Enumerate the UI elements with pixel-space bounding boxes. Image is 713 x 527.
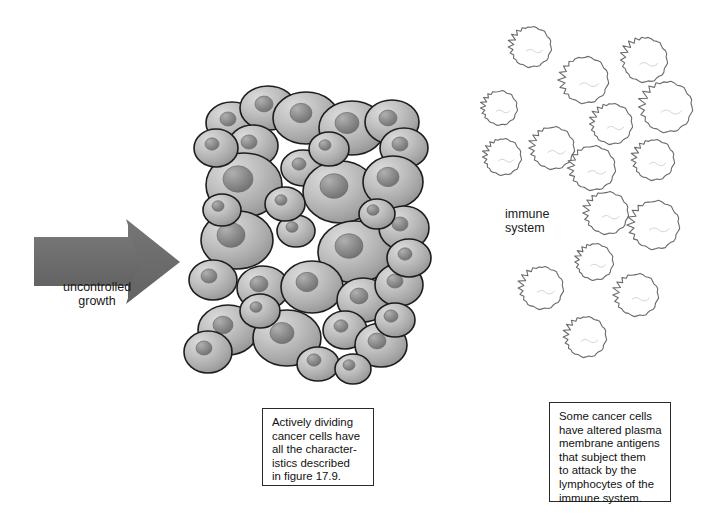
lymphocyte-membrane [558,56,609,103]
immune-caption-box: Some cancer cells have altered plasma me… [549,402,671,502]
lymphocyte-membrane [627,200,680,249]
lymphocyte [480,91,517,126]
lymphocyte-membrane [483,139,522,176]
lymphocyte-membrane [639,81,693,132]
immune-caption-text: Some cancer cells have altered plasma me… [559,410,662,505]
lymphocyte-membrane [480,91,517,126]
lymphocyte [575,244,614,281]
lymphocyte-membrane [590,104,633,145]
lymphocyte [508,27,551,68]
lymphocyte [558,56,609,103]
lymphocyte [639,81,693,132]
lymphocyte-membrane [621,37,668,82]
lymphocyte [518,266,564,309]
lymphocyte [529,126,575,169]
immune-system-label: immune system [505,207,549,235]
lymphocyte-membrane [631,140,674,181]
lymphocyte-membrane [508,27,551,68]
lymphocyte [627,200,680,249]
lymphocyte-membrane [583,191,629,234]
lymphocyte-membrane [613,273,659,316]
lymphocyte-membrane [518,266,564,309]
lymphocyte [583,191,629,234]
lymphocyte [590,104,633,145]
lymphocyte [563,317,606,358]
lymphocyte [631,140,674,181]
lymphocyte [613,273,659,316]
lymphocyte-membrane [529,126,575,169]
lymphocyte [621,37,668,82]
lymphocyte [483,139,522,176]
lymphocyte-membrane [563,317,606,358]
tumor-caption-box: Actively dividing cancer cells have all … [262,408,374,486]
lymphocyte-membrane [575,244,614,281]
cancer-immune-diagram: uncontrolled growth immune system Active… [0,0,713,527]
tumor-caption-text: Actively dividing cancer cells have all … [272,416,365,484]
